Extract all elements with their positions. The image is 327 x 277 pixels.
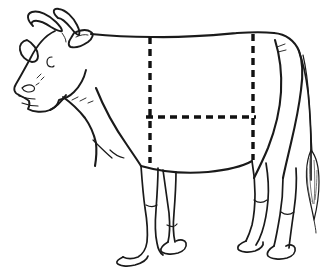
tail-tuft <box>307 150 319 220</box>
near-hock <box>254 200 267 202</box>
neck-marks <box>72 97 93 103</box>
head <box>14 31 86 112</box>
brisket <box>96 88 141 166</box>
far-ear <box>69 30 93 47</box>
far-foreleg-rear <box>173 172 176 242</box>
near-foreleg-rear <box>155 168 163 255</box>
near-foreleg <box>123 166 147 259</box>
tail-tip <box>314 220 316 233</box>
far-hind-hoof <box>267 245 295 259</box>
far-foreleg <box>163 170 170 242</box>
near-hindleg <box>246 161 255 241</box>
cow-diagram <box>0 0 327 277</box>
mouth-line <box>19 96 35 99</box>
eye <box>47 57 54 67</box>
near-foreleg-knee <box>146 205 157 207</box>
cow-illustration <box>0 0 327 277</box>
far-hock <box>281 212 294 214</box>
near-front-hoof <box>117 256 148 266</box>
nostril <box>22 85 35 92</box>
forehead-tuft <box>62 33 66 42</box>
far-front-hoof <box>161 240 186 254</box>
tail <box>299 51 311 180</box>
shoulder-crease <box>110 150 124 158</box>
far-foreleg-fetlock <box>167 224 177 226</box>
tail-tuft-hairs <box>307 158 317 204</box>
hindquarter-front <box>254 40 281 178</box>
far-hindleg-rear <box>289 168 296 248</box>
neck <box>63 97 96 166</box>
left-horn <box>28 12 62 32</box>
near-hindleg-rear <box>256 163 268 245</box>
muzzle-marks <box>36 74 44 85</box>
near-hind-hoof <box>238 241 263 252</box>
topline <box>91 32 274 37</box>
